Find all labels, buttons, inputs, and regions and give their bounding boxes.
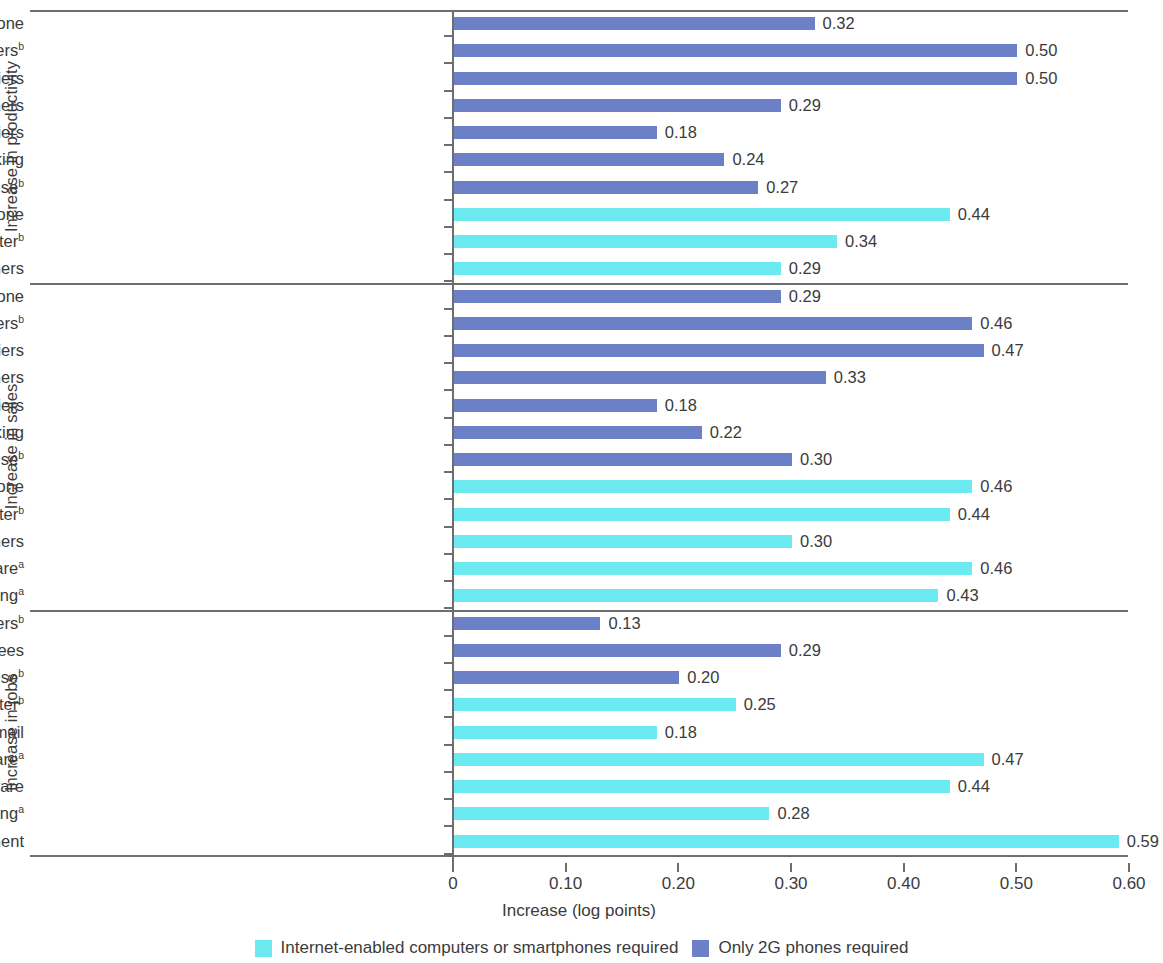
legend-swatch-internet-enabled [255, 940, 272, 957]
bar[interactable] [454, 17, 815, 30]
bar-row[interactable]: Use 2G mobile phone0.32 [30, 10, 1128, 37]
bar-value-label: 0.18 [665, 120, 697, 145]
x-axis-tick [903, 863, 905, 872]
bar[interactable] [454, 44, 1017, 57]
bar[interactable] [454, 72, 1017, 85]
bar-row[interactable]: Use accounting softwarea0.46 [30, 555, 1128, 582]
bar-row[interactable]: Use MM to pay suppliers0.18 [30, 119, 1128, 146]
bar[interactable] [454, 671, 679, 684]
bar-row[interactable]: Use SMS to advertiseb0.30 [30, 446, 1128, 473]
bar[interactable] [454, 508, 950, 521]
bar[interactable] [454, 235, 837, 248]
bar-value-label: 0.18 [665, 393, 697, 418]
bar-value-label: 0.44 [958, 774, 990, 799]
bar[interactable] [454, 99, 781, 112]
group-axis-title-text: Increase in jobs [3, 674, 22, 791]
x-axis-tick [790, 863, 792, 872]
bar-row[interactable]: Use 3G/4G smartphone0.44 [30, 201, 1128, 228]
x-axis-tick-label: 0.20 [638, 874, 718, 894]
bar-value-label: 0.18 [665, 720, 697, 745]
bar[interactable] [454, 617, 600, 630]
bar-value-label: 0.46 [980, 474, 1012, 499]
x-axis-line [30, 855, 1128, 857]
bar-row[interactable]: Use 2G mobile phone0.29 [30, 283, 1128, 310]
bar[interactable] [454, 317, 972, 330]
bar[interactable] [454, 262, 781, 275]
bar[interactable] [454, 290, 781, 303]
x-axis-tick-label: 0.50 [976, 874, 1056, 894]
bar-value-label: 0.43 [946, 583, 978, 608]
bar[interactable] [454, 344, 984, 357]
group-axis-title-text: Increase in sales [3, 383, 22, 509]
bar-row[interactable]: Use phone for banking0.22 [30, 419, 1128, 446]
bar[interactable] [454, 780, 950, 793]
bar-row[interactable]: Use a computerb0.25 [30, 691, 1128, 718]
bar-row[interactable]: Use 3G/4G smartphone0.46 [30, 473, 1128, 500]
x-axis-tick [565, 863, 567, 872]
bar-value-label: 0.46 [980, 556, 1012, 581]
bar-value-label: 0.50 [1025, 38, 1057, 63]
bar-row[interactable]: Use SMS to advertiseb0.20 [30, 664, 1128, 691]
bar-row[interactable]: Use internet for email0.18 [30, 719, 1128, 746]
bar[interactable] [454, 480, 972, 493]
bar[interactable] [454, 535, 792, 548]
bar-row[interactable]: Use voice to communicate w/ customersb0.… [30, 610, 1128, 637]
bar-row[interactable]: Use POS/inventory control software0.44 [30, 773, 1128, 800]
legend-item-2g-only[interactable]: Only 2G phones required [692, 938, 908, 958]
bar-row[interactable]: Use MM to receive payments from customer… [30, 364, 1128, 391]
bar[interactable] [454, 153, 724, 166]
x-axis-tick-label: 0.60 [1089, 874, 1163, 894]
bar-row[interactable]: Use a computerb0.34 [30, 228, 1128, 255]
bar[interactable] [454, 426, 702, 439]
bar-row[interactable]: Use voice to communicate w/ suppliers0.4… [30, 337, 1128, 364]
x-axis-tick-label: 0.30 [751, 874, 831, 894]
bar-chart: Use 2G mobile phone0.32Use voice to comm… [0, 0, 1163, 963]
bar-row[interactable]: Use internet for recruitment0.59 [30, 828, 1128, 855]
bar-row[interactable]: Use accounting softwarea0.47 [30, 746, 1128, 773]
bar[interactable] [454, 208, 950, 221]
bar[interactable] [454, 589, 938, 602]
bar-row[interactable]: Use internet for online bankinga0.43 [30, 582, 1128, 609]
bar[interactable] [454, 807, 769, 820]
bar-row[interactable]: Use internet for online bankinga0.28 [30, 800, 1128, 827]
bar[interactable] [454, 399, 657, 412]
bar-value-label: 0.34 [845, 229, 877, 254]
bar[interactable] [454, 562, 972, 575]
bar-value-label: 0.22 [710, 420, 742, 445]
legend-label-2g-only: Only 2G phones required [718, 938, 908, 958]
bar-row[interactable]: Use voice to communicate w/ customersb0.… [30, 310, 1128, 337]
x-axis-tick-label: 0.10 [526, 874, 606, 894]
bar-row[interactable]: Use internet to better understand custom… [30, 255, 1128, 282]
bar-row[interactable]: Use voice to communicate w/ customersb0.… [30, 37, 1128, 64]
bar[interactable] [454, 726, 657, 739]
bar[interactable] [454, 753, 984, 766]
bar-row[interactable]: Use MM to receive payments from customer… [30, 92, 1128, 119]
chart-legend: Internet-enabled computers or smartphone… [0, 938, 1163, 958]
bar-row[interactable]: Use voice to communicate w/ suppliers0.5… [30, 65, 1128, 92]
legend-item-internet-enabled[interactable]: Internet-enabled computers or smartphone… [255, 938, 679, 958]
plot-top-border [30, 10, 1128, 12]
bar[interactable] [454, 835, 1119, 848]
bar-value-label: 0.44 [958, 502, 990, 527]
bar-row[interactable]: Use phone for banking0.24 [30, 146, 1128, 173]
bar-value-label: 0.46 [980, 311, 1012, 336]
x-axis-tick [452, 863, 454, 872]
bar[interactable] [454, 453, 792, 466]
bar-value-label: 0.24 [732, 147, 764, 172]
bar[interactable] [454, 371, 826, 384]
bar[interactable] [454, 126, 657, 139]
x-axis-tick-label: 0 [413, 874, 493, 894]
bar-row[interactable]: Use SMS to advertiseb0.27 [30, 174, 1128, 201]
plot-area: Use 2G mobile phone0.32Use voice to comm… [30, 10, 1128, 863]
bar-value-label: 0.30 [800, 447, 832, 472]
bar-row[interactable]: Use internet to better understand custom… [30, 528, 1128, 555]
bar-row[interactable]: Use MM to pay employees0.29 [30, 637, 1128, 664]
bar-value-label: 0.29 [789, 638, 821, 663]
bar-row[interactable]: Use MM to pay suppliers0.18 [30, 392, 1128, 419]
bar-row[interactable]: Use a computerb0.44 [30, 501, 1128, 528]
bar[interactable] [454, 181, 758, 194]
bar[interactable] [454, 698, 736, 711]
bar-value-label: 0.29 [789, 284, 821, 309]
group-axis-title: Increase in sales [0, 283, 24, 610]
bar[interactable] [454, 644, 781, 657]
